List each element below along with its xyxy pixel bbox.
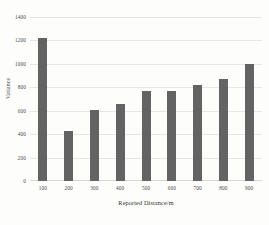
x-tick-label: 100	[30, 185, 56, 191]
bar-slot	[56, 17, 82, 181]
bar-slot	[185, 17, 211, 181]
plot-area	[30, 17, 262, 181]
bar-slot	[159, 17, 185, 181]
bar[interactable]	[167, 91, 176, 181]
x-tick-label: 500	[133, 185, 159, 191]
bar-chart-figure: 1400 1200 1000 800 600 400 200 0 Varianc…	[0, 0, 269, 225]
bar[interactable]	[90, 110, 99, 181]
bar[interactable]	[38, 38, 47, 182]
bars-layer	[30, 17, 262, 181]
x-tick-label: 400	[107, 185, 133, 191]
bar[interactable]	[193, 85, 202, 181]
y-tick-label: 200	[18, 155, 26, 161]
bar-slot	[210, 17, 236, 181]
bar[interactable]	[116, 104, 125, 181]
y-tick-label: 800	[18, 84, 26, 90]
y-tick-label: 1400	[15, 14, 26, 20]
bar[interactable]	[142, 91, 151, 181]
bar-slot	[30, 17, 56, 181]
bar-slot	[133, 17, 159, 181]
bar[interactable]	[219, 79, 228, 182]
bar-slot	[82, 17, 108, 181]
x-tick-label: 900	[236, 185, 262, 191]
bar-slot	[107, 17, 133, 181]
x-tick-label: 300	[82, 185, 108, 191]
y-tick-label: 0	[23, 178, 26, 184]
x-tick-label: 700	[185, 185, 211, 191]
x-tick-label: 200	[56, 185, 82, 191]
y-tick-label: 600	[18, 108, 26, 114]
bar-slot	[236, 17, 262, 181]
x-axis-title: Reported Distance/m	[30, 199, 262, 206]
y-axis-tick-labels: 1400 1200 1000 800 600 400 200 0	[0, 0, 30, 225]
x-tick-label: 600	[159, 185, 185, 191]
y-tick-label: 400	[18, 131, 26, 137]
x-tick-label: 800	[210, 185, 236, 191]
y-tick-label: 1200	[15, 37, 26, 43]
y-axis-title: Variance	[5, 78, 11, 99]
y-tick-label: 1000	[15, 61, 26, 67]
bar[interactable]	[64, 131, 73, 181]
bar[interactable]	[245, 64, 254, 181]
x-axis-tick-labels: 100 200 300 400 500 600 700 800 900	[30, 185, 262, 191]
